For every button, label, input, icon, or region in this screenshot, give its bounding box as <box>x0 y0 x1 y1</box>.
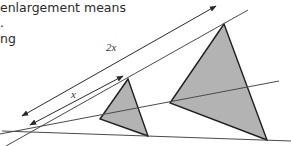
large-triangle <box>170 24 267 140</box>
enlargement-diagram: 2x x <box>0 0 291 146</box>
label-x: x <box>70 88 76 100</box>
label-2x: 2x <box>106 41 117 53</box>
